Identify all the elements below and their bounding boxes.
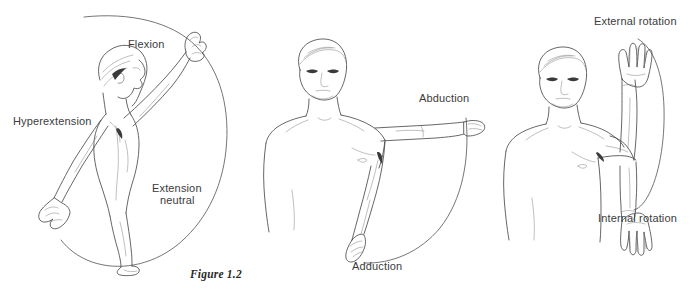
foot-near	[117, 266, 139, 276]
torso-right-3	[598, 158, 601, 242]
panel-flexion-extension	[39, 16, 227, 276]
nose-3	[561, 81, 568, 95]
spine-shading	[116, 126, 118, 200]
torso-left-3	[504, 151, 509, 240]
eye-left-2	[306, 70, 318, 74]
face-profile	[118, 60, 145, 99]
forearm-down-muscle-3	[629, 168, 630, 208]
wrist-crease-down-3	[621, 211, 635, 213]
upper-arm-superior-3	[610, 136, 634, 160]
forearm-down-medial-3	[620, 166, 622, 221]
eye-right-3	[567, 78, 579, 82]
head-outline	[98, 45, 146, 106]
sternum-notch-2	[318, 118, 331, 120]
leg-near-front	[126, 213, 132, 266]
adducted-arm-lateral-2	[364, 142, 385, 234]
forearm-up-muscle-3	[628, 98, 630, 148]
hyperextended-arm-upper	[54, 120, 101, 198]
upper-arm-inferior-3	[598, 156, 636, 160]
shoulder-left-3	[506, 124, 546, 151]
abducted-arm-superior	[375, 122, 464, 128]
abducted-elbow-crease-2	[421, 126, 423, 137]
neck-back	[103, 93, 106, 114]
forearm-down-lateral-3	[634, 162, 637, 220]
adducted-arm-medial-2	[352, 166, 371, 240]
neck-left-2	[306, 99, 309, 116]
neck-right-2	[337, 97, 341, 115]
figure-caption: Figure 1.2	[190, 268, 242, 280]
eye-right-2	[327, 70, 339, 74]
clavicle-left-2	[286, 120, 308, 132]
hyperextended-hand-fingers	[45, 207, 62, 222]
abduction-adduction-arc	[364, 118, 467, 263]
hyperextended-hand	[39, 198, 70, 229]
forearm-up-lateral-3	[634, 80, 637, 160]
mouth-3	[556, 98, 570, 99]
shoulder-left-2	[266, 116, 306, 143]
line-art-canvas	[0, 0, 693, 297]
clavicle-left-3	[526, 128, 548, 140]
eye-brow-detail	[133, 68, 140, 70]
adducted-hand-2	[346, 234, 366, 262]
panel-external-internal-rotation	[504, 39, 665, 255]
raised-arm-posterior	[124, 52, 186, 118]
abducted-arm-muscle-2	[396, 130, 424, 131]
hair-strand-a	[103, 55, 133, 72]
head-outline-2	[298, 39, 346, 100]
upper-arm-muscle-3	[606, 146, 628, 152]
nipple-detail-3	[578, 165, 587, 169]
raised-hand	[185, 32, 206, 61]
hand-down-3	[621, 213, 652, 255]
raised-arm-anterior	[133, 58, 190, 126]
figure-illustration: Flexion Hyperextension Extension neutral…	[0, 0, 693, 297]
abdomen-line-2	[292, 190, 294, 230]
nipple-detail-2	[358, 159, 367, 163]
neck-left-3	[546, 107, 549, 124]
nose-2	[321, 73, 328, 87]
eye-left-3	[546, 78, 558, 82]
palm-detail-3	[627, 74, 645, 76]
panel-abduction-adduction	[264, 39, 485, 263]
abdomen-line-3	[532, 198, 534, 240]
hair-line-2	[300, 50, 346, 64]
shoulder-right-3	[581, 123, 624, 147]
leg-inner-line	[120, 222, 126, 256]
hair-line-3	[540, 58, 586, 72]
torso-back-outline	[94, 114, 110, 216]
adducted-axilla-shading-2	[377, 152, 382, 164]
leg-near-back	[110, 216, 121, 267]
abducted-hand-fingers-2	[468, 124, 482, 130]
head-outline-3	[538, 47, 586, 108]
neck-right-3	[577, 105, 581, 123]
flank-detail	[125, 140, 128, 172]
mouth-2	[316, 90, 330, 91]
rotation-arc	[634, 39, 664, 210]
pectoral-line-2	[352, 148, 375, 155]
foot-detail	[124, 270, 137, 272]
palm-detail-down-3	[627, 223, 645, 225]
torso-left-2	[264, 143, 269, 232]
pectoral-line-3	[572, 152, 595, 162]
abducted-arm-inferior	[381, 134, 464, 141]
sternum-notch-3	[558, 126, 571, 128]
hyperextended-arm-lower	[62, 126, 108, 202]
